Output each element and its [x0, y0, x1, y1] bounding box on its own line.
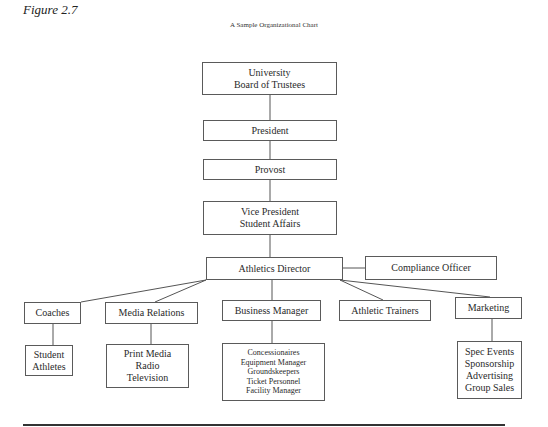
- node-text: Radio: [136, 360, 160, 372]
- node-text: Business Manager: [235, 305, 309, 317]
- node-compliance-officer: Compliance Officer: [365, 256, 497, 280]
- node-text: Student Affairs: [240, 218, 301, 230]
- node-text: Ticket Personnel: [247, 377, 301, 387]
- node-text: Concessionaires: [248, 348, 300, 358]
- node-text: Spec Events: [465, 346, 514, 358]
- node-text: University: [248, 67, 290, 79]
- node-student-athletes: Student Athletes: [25, 345, 73, 376]
- node-text: Media Relations: [119, 307, 185, 319]
- node-vice-president: Vice President Student Affairs: [203, 201, 337, 235]
- node-athletics-director: Athletics Director: [206, 257, 343, 280]
- node-board-of-trustees: University Board of Trustees: [202, 62, 337, 95]
- node-business-manager: Business Manager: [222, 300, 321, 321]
- node-text: Student: [34, 349, 65, 361]
- node-text: President: [251, 125, 288, 137]
- node-marketing: Marketing: [455, 297, 522, 319]
- node-text: Sponsorship: [465, 358, 514, 370]
- node-text: Print Media: [124, 348, 172, 360]
- node-marketing-areas: Spec Events Sponsorship Advertising Grou…: [457, 341, 522, 399]
- node-text: Groundskeepers: [248, 367, 300, 377]
- node-president: President: [203, 120, 337, 141]
- node-media-relations: Media Relations: [105, 302, 198, 324]
- node-text: Equipment Manager: [241, 358, 307, 368]
- node-text: Athletes: [32, 361, 65, 373]
- node-text: Athletics Director: [239, 263, 311, 275]
- node-text: Compliance Officer: [391, 262, 471, 274]
- node-provost: Provost: [203, 159, 337, 180]
- node-text: Facility Manager: [246, 386, 301, 396]
- bottom-rule-divider: [23, 424, 505, 426]
- node-text: Marketing: [468, 302, 510, 314]
- node-media-outlets: Print Media Radio Television: [106, 344, 189, 388]
- node-text: Vice President: [241, 206, 299, 218]
- node-text: Group Sales: [465, 382, 514, 394]
- node-text: Television: [127, 372, 169, 384]
- node-business-staff: Concessionaires Equipment Manager Ground…: [222, 343, 325, 401]
- node-text: Coaches: [36, 307, 70, 319]
- node-text: Advertising: [466, 370, 513, 382]
- node-coaches: Coaches: [24, 302, 81, 324]
- node-text: Provost: [255, 164, 286, 176]
- node-text: Athletic Trainers: [351, 305, 419, 317]
- node-text: Board of Trustees: [234, 79, 305, 91]
- node-athletic-trainers: Athletic Trainers: [339, 300, 431, 321]
